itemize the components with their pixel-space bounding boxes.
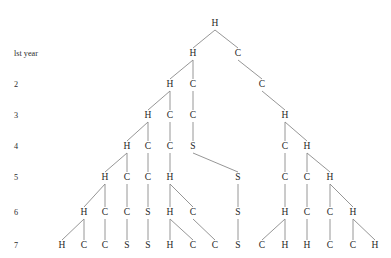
tree-node-c: C xyxy=(167,142,174,152)
tree-edge xyxy=(193,30,215,48)
tree-node-h: H xyxy=(80,208,87,218)
tree-node-h: H xyxy=(303,241,310,251)
tree-edge xyxy=(170,219,193,240)
tree-node-h: H xyxy=(166,241,173,251)
tree-node-c: C xyxy=(145,173,152,183)
tree-node-h: H xyxy=(303,142,310,152)
tree-node-c: C xyxy=(124,208,131,218)
tree-node-c: C xyxy=(259,241,266,251)
tree-node-c: C xyxy=(102,208,109,218)
tree-edge xyxy=(170,60,193,79)
row-label: 7 xyxy=(14,242,18,250)
tree-node-h: H xyxy=(166,208,173,218)
tree-node-s: S xyxy=(145,241,150,251)
tree-node-h: H xyxy=(58,241,65,251)
tree-edge xyxy=(62,219,84,240)
tree-edge xyxy=(238,60,262,79)
tree-node-c: C xyxy=(304,173,311,183)
tree-node-s: S xyxy=(145,208,150,218)
tree-edge xyxy=(215,30,238,48)
tree-node-c: C xyxy=(190,111,197,121)
row-label: 4 xyxy=(14,143,18,151)
tree-edge xyxy=(148,91,170,110)
row-label: 5 xyxy=(14,174,18,182)
tree-node-c: C xyxy=(350,241,357,251)
tree-node-c: C xyxy=(327,208,334,218)
tree-edge xyxy=(330,184,353,207)
tree-edge xyxy=(193,153,238,172)
tree-diagram-canvas: lst year234567 HHCHCCHCCHHCCSCHHCCHSCCHH… xyxy=(0,0,391,258)
tree-node-c: C xyxy=(304,208,311,218)
tree-edge xyxy=(307,153,330,172)
tree-node-c: C xyxy=(259,80,266,90)
tree-node-h: H xyxy=(281,111,288,121)
tree-node-c: C xyxy=(102,241,109,251)
tree-node-c: C xyxy=(190,80,197,90)
row-label: lst year xyxy=(14,50,38,58)
tree-node-h: H xyxy=(349,208,356,218)
tree-node-c: C xyxy=(145,142,152,152)
tree-node-h: H xyxy=(211,19,218,29)
tree-node-h: H xyxy=(281,208,288,218)
tree-node-h: H xyxy=(123,142,130,152)
tree-node-s: S xyxy=(235,208,240,218)
tree-edge xyxy=(262,91,285,110)
tree-edge xyxy=(170,184,193,207)
tree-edge xyxy=(84,184,105,207)
tree-node-s: S xyxy=(190,142,195,152)
tree-edge xyxy=(105,153,127,172)
tree-node-c: C xyxy=(81,241,88,251)
tree-node-h: H xyxy=(371,241,378,251)
tree-node-h: H xyxy=(281,241,288,251)
tree-node-h: H xyxy=(101,173,108,183)
tree-edge xyxy=(127,122,148,141)
tree-node-h: H xyxy=(166,173,173,183)
row-label: 3 xyxy=(14,112,18,120)
tree-node-h: H xyxy=(166,80,173,90)
tree-node-c: C xyxy=(124,173,131,183)
tree-node-c: C xyxy=(327,241,334,251)
tree-node-c: C xyxy=(190,241,197,251)
row-label: 2 xyxy=(14,81,18,89)
tree-node-c: C xyxy=(282,173,289,183)
tree-node-s: S xyxy=(235,241,240,251)
tree-node-c: C xyxy=(282,142,289,152)
tree-node-c: C xyxy=(235,49,242,59)
tree-node-h: H xyxy=(189,49,196,59)
tree-node-c: C xyxy=(167,111,174,121)
tree-edge xyxy=(193,219,215,240)
tree-node-h: H xyxy=(326,173,333,183)
tree-edge xyxy=(353,219,375,240)
row-label: 6 xyxy=(14,209,18,217)
tree-node-c: C xyxy=(190,208,197,218)
tree-node-s: S xyxy=(124,241,129,251)
edge-layer xyxy=(0,0,391,258)
tree-edge xyxy=(262,219,285,240)
tree-node-c: C xyxy=(212,241,219,251)
tree-edge xyxy=(285,122,307,141)
tree-node-h: H xyxy=(144,111,151,121)
tree-node-s: S xyxy=(235,173,240,183)
